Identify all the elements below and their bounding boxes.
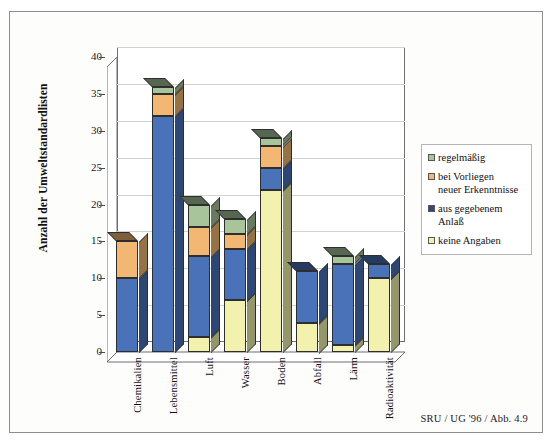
y-tick-mark xyxy=(99,315,105,316)
bar-segment[interactable] xyxy=(260,146,282,168)
x-axis-label: Chemikalien xyxy=(132,357,143,413)
bar-segment-side xyxy=(319,263,328,324)
y-tick-mark xyxy=(99,168,105,169)
bar-group[interactable] xyxy=(152,57,174,352)
y-tick-mark xyxy=(99,57,105,58)
y-tick-mark xyxy=(99,241,105,242)
bar-segment[interactable] xyxy=(188,227,210,257)
bar-segment[interactable] xyxy=(188,256,210,337)
figure-frame: Anzahl der Umweltstandardlisten 05101520… xyxy=(9,11,543,433)
legend-item[interactable]: bei Vorliegen neuer Erkenntnisse xyxy=(428,171,525,196)
bar-group[interactable] xyxy=(296,57,318,352)
bar-group[interactable] xyxy=(188,57,210,352)
x-axis-label: Wasser xyxy=(240,357,251,388)
bar-segment-side xyxy=(211,248,220,338)
bar-segment[interactable] xyxy=(188,205,210,227)
y-axis-title: Anzahl der Umweltstandardlisten xyxy=(37,73,49,263)
legend-swatch-icon xyxy=(428,173,435,180)
bar-segment[interactable] xyxy=(260,138,282,145)
bar-segment[interactable] xyxy=(296,271,318,323)
x-axis-label: Lärm xyxy=(348,357,359,381)
legend-swatch-icon xyxy=(428,154,435,161)
bar-group[interactable] xyxy=(224,57,246,352)
bar-top-cap xyxy=(323,247,354,256)
legend-item[interactable]: regelmäßig xyxy=(428,152,525,164)
gridline xyxy=(117,47,405,48)
legend-item[interactable]: keine Angaben xyxy=(428,235,525,247)
bar-segment[interactable] xyxy=(332,264,354,345)
bar-top-cap xyxy=(107,232,138,241)
y-tick-mark xyxy=(99,131,105,132)
bar-segment-side xyxy=(247,241,256,302)
bar-segment[interactable] xyxy=(224,234,246,249)
bar-segment[interactable] xyxy=(332,345,354,352)
y-tick-mark xyxy=(99,352,105,353)
y-tick-mark xyxy=(99,94,105,95)
y-tick-mark xyxy=(99,205,105,206)
bar-segment[interactable] xyxy=(152,94,174,116)
bar-segment[interactable] xyxy=(188,337,210,352)
bar-segment[interactable] xyxy=(368,278,390,352)
legend-swatch-icon xyxy=(428,237,435,244)
chart-legend: regelmäßigbei Vorliegen neuer Erkenntnis… xyxy=(421,144,532,255)
x-axis-label: Radioaktivität xyxy=(384,357,395,419)
bar-segment[interactable] xyxy=(368,264,390,279)
bar-segment-side xyxy=(391,270,400,353)
bar-segment[interactable] xyxy=(260,190,282,352)
bar-segment[interactable] xyxy=(224,219,246,234)
bar-group[interactable] xyxy=(260,57,282,352)
x-axis-label: Lebensmittel xyxy=(168,357,179,414)
bar-segment-side xyxy=(175,108,184,353)
bar-segment[interactable] xyxy=(260,168,282,190)
bar-segment[interactable] xyxy=(116,278,138,352)
bar-segment[interactable] xyxy=(296,323,318,353)
legend-label: bei Vorliegen neuer Erkenntnisse xyxy=(438,171,518,196)
legend-swatch-icon xyxy=(428,205,435,212)
legend-label: aus gegebenem Anlaß xyxy=(438,203,502,228)
bar-segment[interactable] xyxy=(152,87,174,94)
bar-segment[interactable] xyxy=(116,241,138,278)
x-axis-label: Boden xyxy=(276,357,287,385)
bar-segment-side xyxy=(283,182,292,353)
source-caption: SRU / UG '96 / Abb. 4.9 xyxy=(421,413,528,424)
bar-segment[interactable] xyxy=(224,300,246,352)
legend-label: keine Angaben xyxy=(438,235,501,247)
y-axis-tick-labels: 0510152025303540 xyxy=(70,57,102,363)
bar-segment[interactable] xyxy=(224,249,246,301)
bar-segment[interactable] xyxy=(152,116,174,352)
bar-segment[interactable] xyxy=(332,256,354,263)
bar-segment-side xyxy=(247,292,256,353)
legend-item[interactable]: aus gegebenem Anlaß xyxy=(428,203,525,228)
bar-top-cap xyxy=(143,78,174,87)
bar-segment-side xyxy=(139,270,148,353)
x-axis-label: Abfall xyxy=(312,357,323,385)
bar-top-cap xyxy=(251,129,282,138)
bar-group[interactable] xyxy=(116,57,138,352)
legend-label: regelmäßig xyxy=(438,152,485,164)
bar-group[interactable] xyxy=(368,57,390,352)
y-tick-mark xyxy=(99,278,105,279)
x-axis-label: Luft xyxy=(204,357,215,376)
bar-segment-side xyxy=(355,256,364,346)
bar-group[interactable] xyxy=(332,57,354,352)
x-axis-category-labels: ChemikalienLebensmittelLuftWasserBodenAb… xyxy=(107,357,407,437)
bar-series-container xyxy=(107,57,395,352)
